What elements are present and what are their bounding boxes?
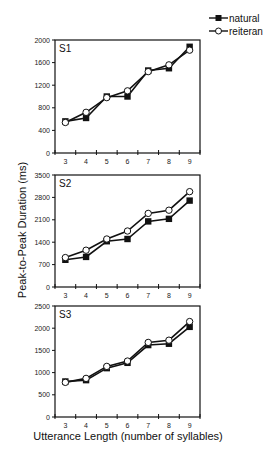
x-tick-label: 5 <box>105 292 109 299</box>
y-tick-label: 2100 <box>34 216 50 223</box>
marker-reiterant <box>186 188 192 194</box>
panel-s2: 070014002100280035003456789S2 <box>34 172 200 300</box>
marker-reiterant <box>104 363 110 369</box>
marker-reiterant <box>186 318 192 324</box>
y-tick-label: 1400 <box>34 239 50 246</box>
x-tick-label: 5 <box>105 158 109 165</box>
marker-reiterant <box>124 358 130 364</box>
marker-reiterant <box>145 339 151 345</box>
marker-reiterant <box>83 109 89 115</box>
y-tick-label: 800 <box>38 104 50 111</box>
marker-reiterant <box>145 210 151 216</box>
marker-reiterant <box>166 337 172 343</box>
y-tick-label: 1500 <box>34 347 50 354</box>
x-tick-label: 9 <box>188 158 192 165</box>
x-tick-label: 9 <box>188 292 192 299</box>
chart-panels: 04008001200160020003456789S1070014002100… <box>34 37 200 430</box>
marker-natural <box>186 197 192 203</box>
marker-reiterant <box>62 254 68 260</box>
marker-reiterant <box>83 247 89 253</box>
legend-square-icon <box>216 15 222 21</box>
y-tick-label: 2800 <box>34 194 50 201</box>
marker-reiterant <box>124 88 130 94</box>
y-axis-title: Peak-to-Peak Duration (ms) <box>16 162 28 298</box>
marker-reiterant <box>62 119 68 125</box>
marker-reiterant <box>104 236 110 242</box>
legend-circle-icon <box>216 28 222 34</box>
panel-label: S3 <box>59 309 72 320</box>
panel-label: S1 <box>59 43 72 54</box>
x-tick-label: 7 <box>146 422 150 429</box>
y-tick-label: 3500 <box>34 172 50 179</box>
x-tick-label: 3 <box>63 292 67 299</box>
marker-natural <box>166 216 172 222</box>
y-tick-label: 1200 <box>34 82 50 89</box>
marker-natural <box>145 218 151 224</box>
panel-s3: 050010001500200025003456789S3 <box>34 303 200 430</box>
marker-reiterant <box>166 207 172 213</box>
y-tick-label: 1600 <box>34 59 50 66</box>
y-tick-label: 2500 <box>34 303 50 310</box>
marker-reiterant <box>83 375 89 381</box>
y-tick-label: 2000 <box>34 325 50 332</box>
legend: naturalreiterant <box>209 13 263 37</box>
y-tick-label: 0 <box>46 284 50 291</box>
x-tick-label: 6 <box>126 292 130 299</box>
series-line-reiterant <box>65 322 189 383</box>
x-tick-label: 8 <box>167 158 171 165</box>
x-tick-label: 7 <box>146 292 150 299</box>
marker-reiterant <box>124 228 130 234</box>
marker-natural <box>83 254 89 260</box>
marker-reiterant <box>62 379 68 385</box>
y-tick-label: 500 <box>38 391 50 398</box>
x-tick-label: 8 <box>167 422 171 429</box>
marker-reiterant <box>166 62 172 68</box>
y-tick-label: 700 <box>38 261 50 268</box>
y-tick-label: 0 <box>46 150 50 157</box>
x-tick-label: 3 <box>63 422 67 429</box>
marker-reiterant <box>145 68 151 74</box>
x-axis-title: Utterance Length (number of syllables) <box>33 430 223 442</box>
figure: naturalreiterant 04008001200160020003456… <box>0 0 263 459</box>
legend-item-natural: natural <box>209 13 260 24</box>
y-tick-label: 1000 <box>34 369 50 376</box>
x-tick-label: 9 <box>188 422 192 429</box>
x-tick-label: 5 <box>105 422 109 429</box>
legend-item-reiterant: reiterant <box>209 26 263 37</box>
y-tick-label: 400 <box>38 127 50 134</box>
y-tick-label: 0 <box>46 414 50 421</box>
x-tick-label: 4 <box>84 158 88 165</box>
y-tick-label: 2000 <box>34 37 50 44</box>
x-tick-label: 4 <box>84 422 88 429</box>
legend-label: reiterant <box>229 26 263 37</box>
series-line-natural <box>65 327 189 382</box>
panel-label: S2 <box>59 178 72 189</box>
x-tick-label: 8 <box>167 292 171 299</box>
x-tick-label: 6 <box>126 158 130 165</box>
legend-label: natural <box>229 13 260 24</box>
marker-reiterant <box>186 47 192 53</box>
x-tick-label: 7 <box>146 158 150 165</box>
x-tick-label: 4 <box>84 292 88 299</box>
marker-natural <box>124 236 130 242</box>
panel-s1: 04008001200160020003456789S1 <box>34 37 200 166</box>
marker-reiterant <box>104 94 110 100</box>
x-tick-label: 3 <box>63 158 67 165</box>
x-tick-label: 6 <box>126 422 130 429</box>
